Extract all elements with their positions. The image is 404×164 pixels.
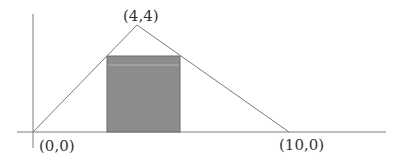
right-vertex-label: (10,0) <box>279 138 324 153</box>
apex-label: (4,4) <box>123 9 159 24</box>
inscribed-rectangle <box>107 56 180 132</box>
origin-label: (0,0) <box>39 139 75 154</box>
